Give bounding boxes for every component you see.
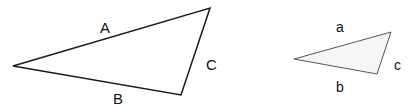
label-side-C: C	[206, 57, 217, 72]
similar-triangles-diagram: A B C a b c	[0, 0, 408, 108]
label-side-c: c	[394, 58, 401, 72]
triangles-graphic	[0, 0, 408, 108]
large-triangle	[13, 8, 210, 95]
label-side-b: b	[336, 80, 344, 94]
label-side-a: a	[336, 20, 344, 34]
small-triangle	[294, 32, 391, 74]
label-side-A: A	[100, 20, 110, 35]
label-side-B: B	[113, 91, 123, 106]
